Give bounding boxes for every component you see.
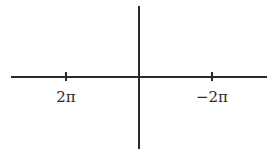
tick-label-neg-2pi: −2π (196, 88, 228, 106)
coordinate-diagram: 2π −2π (0, 0, 278, 152)
tick-label-2pi: 2π (56, 88, 75, 106)
tick-mark-2pi (65, 72, 67, 81)
vertical-axis (138, 6, 140, 149)
tick-mark-neg-2pi (211, 72, 213, 81)
